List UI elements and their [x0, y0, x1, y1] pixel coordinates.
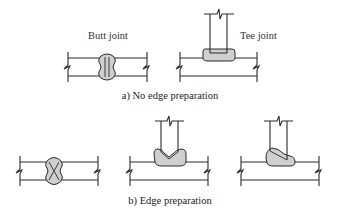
caption-no-edge-preparation: a) No edge preparation	[122, 91, 219, 102]
butt-joint-edge-prep	[16, 156, 100, 186]
tee-joint-single-bevel	[237, 116, 321, 186]
tee-joint-label: Tee joint	[240, 31, 277, 42]
tee-joint-no-prep	[176, 9, 259, 82]
butt-joint-label: Butt joint	[88, 31, 128, 42]
caption-edge-preparation: b) Edge preparation	[128, 196, 211, 207]
welded-joints-diagram: Butt joint Tee joint a) No edge preparat…	[0, 0, 339, 216]
butt-joint-no-prep	[64, 52, 149, 82]
tee-joint-double-bevel	[126, 116, 210, 186]
